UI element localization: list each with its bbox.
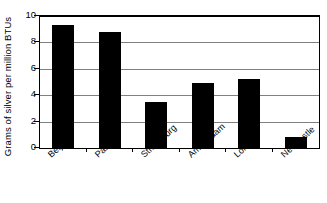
- x-axis-tick-labels: BeijingParisStrasbourgAmsterdamLondonNew…: [39, 152, 327, 203]
- plot-area: [39, 15, 320, 149]
- y-axis-title-text: Grams of silver per million BTUs: [3, 16, 14, 155]
- bar-chart: Grams of silver per million BTUs 0246810…: [0, 0, 327, 203]
- bar-paris: [99, 32, 121, 148]
- y-axis-title: Grams of silver per million BTUs: [0, 0, 16, 172]
- gridline-y-0: [40, 148, 319, 149]
- plot-inner: [40, 16, 319, 148]
- bar-beijing: [52, 25, 74, 148]
- y-axis-tick-labels: 0246810: [18, 10, 36, 152]
- bars-group: [40, 16, 319, 148]
